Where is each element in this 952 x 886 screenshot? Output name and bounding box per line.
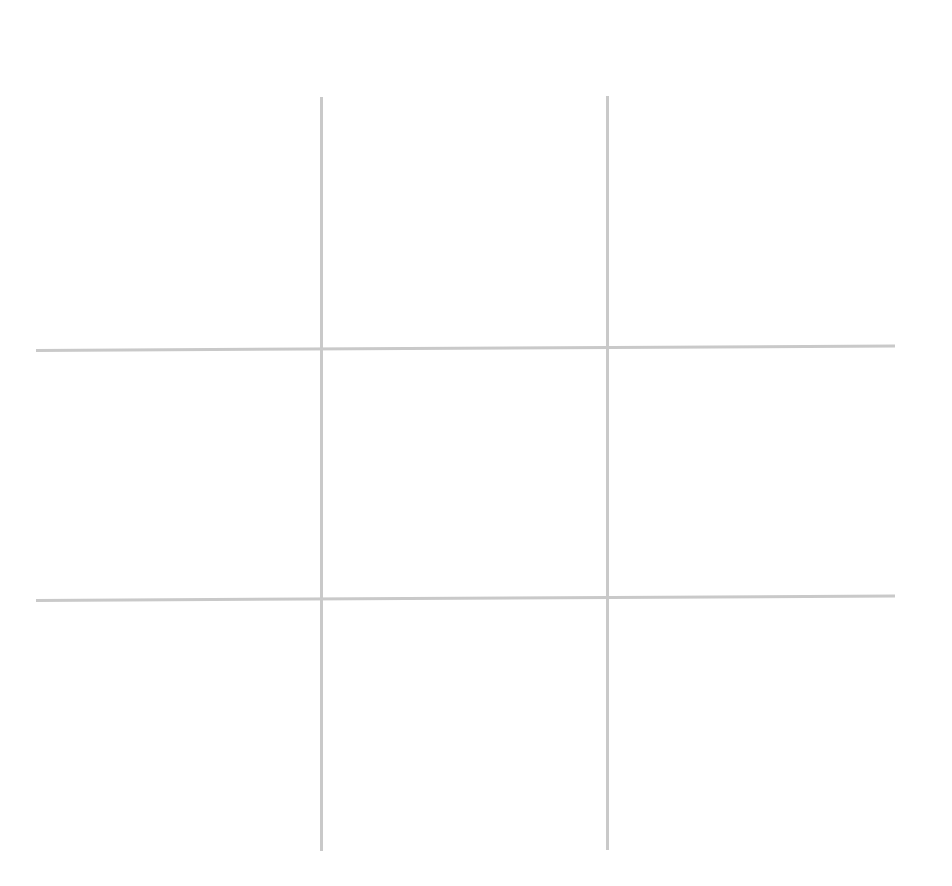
cell-0-0[interactable]	[36, 97, 320, 349]
cell-1-0[interactable]	[36, 352, 320, 599]
tic-tac-toe-board	[0, 0, 952, 886]
cell-1-2[interactable]	[609, 348, 895, 595]
cell-0-2[interactable]	[609, 97, 895, 346]
cell-1-1[interactable]	[323, 352, 606, 598]
cell-2-0[interactable]	[36, 602, 320, 851]
cell-2-1[interactable]	[323, 601, 606, 851]
cell-0-1[interactable]	[323, 97, 606, 349]
cell-2-2[interactable]	[609, 598, 895, 850]
